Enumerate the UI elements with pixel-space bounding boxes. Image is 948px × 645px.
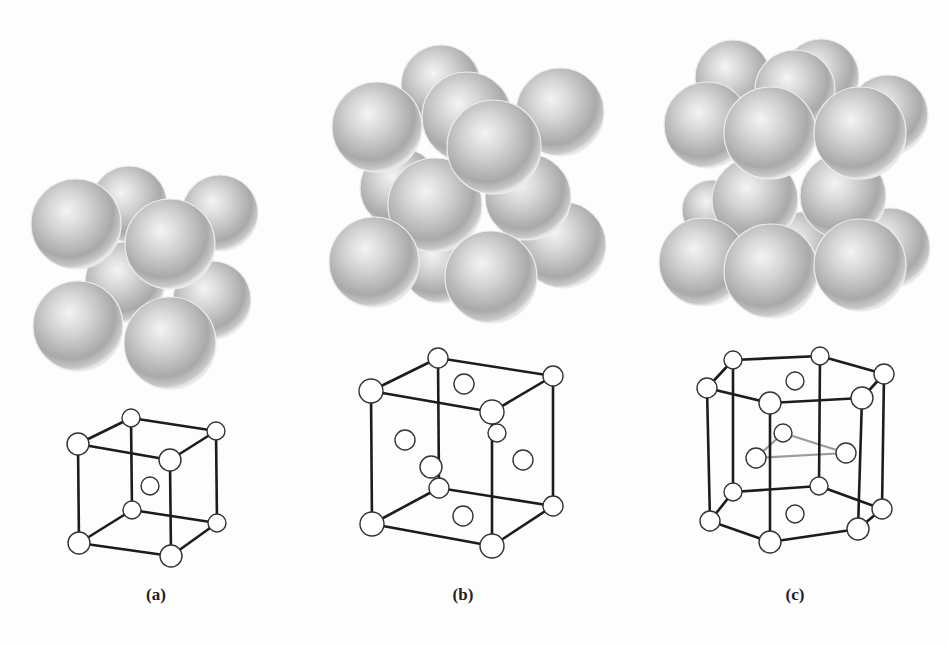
lattice-point (700, 511, 720, 531)
cell-edge (131, 418, 132, 510)
lattice-point (811, 347, 829, 365)
lattice-point (759, 531, 781, 553)
atom-sphere (447, 100, 541, 194)
lattice-point (160, 545, 182, 567)
panel-label-a: (a) (146, 585, 166, 605)
cell-edge (819, 356, 820, 486)
cell-edge (216, 431, 217, 523)
lattice-point (847, 518, 869, 540)
lattice-point (122, 409, 140, 427)
atom-sphere (445, 231, 537, 323)
lattice-point (836, 443, 856, 463)
atom-sphere (33, 281, 123, 371)
lattice-point (68, 532, 90, 554)
lattice-point (786, 372, 804, 390)
lattice-point (360, 512, 384, 536)
cell-edge (733, 356, 820, 360)
cell-edge (371, 391, 492, 412)
bcc-sphere-model (31, 166, 258, 389)
lattice-point (454, 374, 474, 394)
cell-edge (770, 398, 862, 403)
lattice-point (428, 348, 448, 368)
bcc-unit-cell (67, 409, 226, 567)
lattice-point (746, 448, 766, 468)
cell-edge (439, 488, 553, 506)
atom-sphere (814, 219, 906, 311)
cell-edge (882, 374, 884, 509)
atom-sphere (125, 199, 215, 289)
atom-sphere (124, 297, 216, 389)
lattice-point (359, 379, 383, 403)
lattice-point (395, 430, 415, 450)
panel-label-c: (c) (786, 585, 805, 605)
lattice-point (724, 483, 742, 501)
crystal-structures-diagram (0, 0, 948, 645)
lattice-point (774, 424, 792, 442)
lattice-point (543, 366, 563, 386)
lattice-point (159, 449, 181, 471)
cell-edge (132, 510, 217, 523)
hcp-sphere-model (659, 39, 930, 318)
atom-sphere (724, 87, 816, 179)
cell-edge (438, 358, 553, 376)
lattice-point (453, 506, 473, 526)
lattice-point (429, 478, 449, 498)
lattice-point (480, 534, 504, 558)
lattice-point (543, 496, 563, 516)
cell-edge (371, 391, 372, 524)
cell-edge (131, 418, 216, 431)
panel-label-b: (b) (453, 585, 474, 605)
cell-edge (770, 529, 858, 542)
atom-sphere (329, 217, 419, 307)
atom-sphere (724, 224, 818, 318)
lattice-point (513, 450, 533, 470)
lattice-point (420, 456, 442, 478)
lattice-point (208, 514, 226, 532)
cell-edge (78, 444, 170, 460)
cell-edge (78, 444, 79, 543)
lattice-point (724, 351, 742, 369)
lattice-point (480, 400, 504, 424)
atom-sphere (31, 179, 121, 269)
lattice-point (123, 501, 141, 519)
hcp-unit-cell (697, 347, 894, 553)
cell-edge (707, 388, 710, 521)
lattice-point (697, 378, 717, 398)
lattice-point (851, 387, 873, 409)
lattice-point (874, 364, 894, 384)
cell-edge (170, 460, 171, 556)
cell-edge (733, 486, 819, 492)
cell-edge (79, 543, 171, 556)
lattice-point (488, 424, 506, 442)
cell-edge (858, 398, 862, 529)
atom-sphere (332, 82, 422, 172)
lattice-point (207, 422, 225, 440)
lattice-point (786, 505, 804, 523)
cell-edge (372, 524, 492, 546)
atom-sphere (814, 87, 906, 179)
lattice-point (810, 477, 828, 495)
lattice-point (141, 477, 159, 495)
fcc-unit-cell (359, 348, 563, 558)
fcc-sphere-model (329, 45, 606, 323)
lattice-point (759, 392, 781, 414)
lattice-point (872, 499, 892, 519)
lattice-point (67, 433, 89, 455)
